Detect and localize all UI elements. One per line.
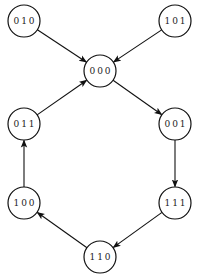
edge-011-to-000: [37, 80, 86, 114]
node-000: 000: [84, 55, 116, 87]
nodes-group: 010101000011001100111110: [8, 5, 191, 273]
node-111: 111: [159, 187, 191, 219]
edge-111-to-110: [113, 212, 162, 247]
edge-010-to-000: [37, 30, 86, 62]
node-011: 011: [8, 108, 40, 140]
node-label: 110: [89, 252, 112, 262]
node-001: 001: [159, 108, 191, 140]
node-label: 011: [13, 119, 36, 129]
node-label: 001: [164, 119, 187, 129]
edge-110-to-100: [37, 213, 87, 248]
graph-svg: 010101000011001100111110: [0, 0, 197, 278]
node-label: 101: [164, 16, 187, 26]
node-label: 000: [89, 66, 112, 76]
node-label: 111: [164, 198, 187, 208]
edge-000-to-001: [113, 80, 161, 114]
node-110: 110: [84, 241, 116, 273]
edge-101-to-000: [114, 30, 162, 62]
node-label: 100: [13, 198, 36, 208]
node-100: 100: [8, 187, 40, 219]
node-101: 101: [159, 5, 191, 37]
state-transition-diagram: 010101000011001100111110: [0, 0, 197, 278]
node-010: 010: [8, 5, 40, 37]
node-label: 010: [13, 16, 36, 26]
